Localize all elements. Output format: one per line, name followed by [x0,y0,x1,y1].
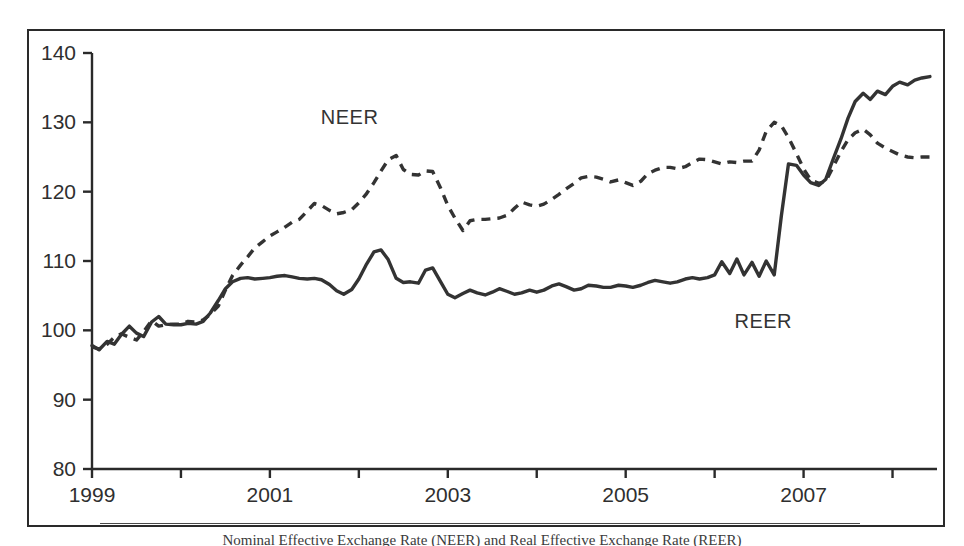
y-tick-label: 120 [20,180,76,204]
series-line-neer [92,122,930,349]
x-tick-label: 2001 [230,483,310,507]
y-tick-label: 110 [20,249,76,273]
caption-rule [100,523,860,524]
series-label-reer: REER [734,310,792,333]
figure-caption: Nominal Effective Exchange Rate (NEER) a… [0,532,964,546]
x-tick-label: 2005 [586,483,666,507]
x-tick-label: 1999 [52,483,132,507]
x-axis-ticks [92,469,893,478]
y-axis-ticks [83,53,92,469]
series-label-neer: NEER [321,106,379,129]
chart-plot-area [0,0,964,546]
y-tick-label: 100 [20,318,76,342]
y-tick-label: 130 [20,110,76,134]
y-tick-label: 80 [20,457,76,481]
y-tick-label: 140 [20,41,76,65]
x-tick-label: 2007 [764,483,844,507]
figure-container: 8090100110120130140 19992001200320052007… [0,0,964,546]
x-tick-label: 2003 [408,483,488,507]
y-tick-label: 90 [20,388,76,412]
axis-lines [92,53,937,469]
